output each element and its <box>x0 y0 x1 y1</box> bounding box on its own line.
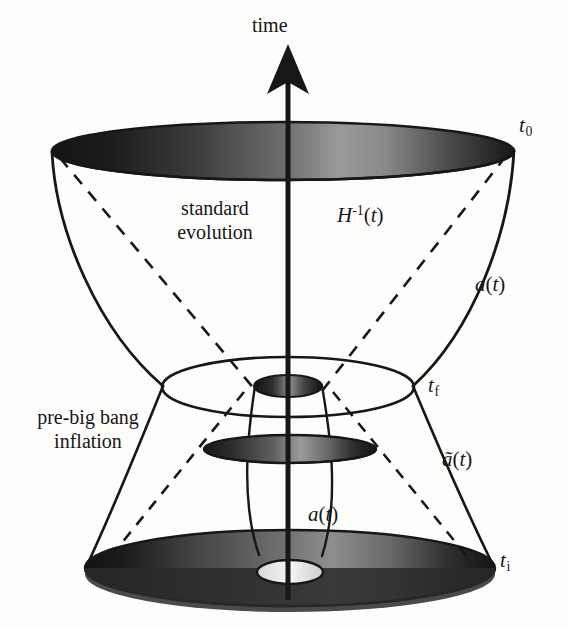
pre-big-bang-inflation-label: pre-big bang inflation <box>6 406 170 453</box>
diagram-canvas <box>0 0 568 630</box>
tf-sub: f <box>434 384 439 399</box>
a-curve-upper-left <box>52 152 163 386</box>
hubble-radius-label: H-1(t) <box>337 203 384 228</box>
atilde-base: ã <box>442 447 453 471</box>
top-disc <box>52 122 514 180</box>
hubble-dashed-upper-left <box>60 158 256 391</box>
a-upper-base: a <box>475 272 486 296</box>
time-marker-tf: tf <box>428 373 438 398</box>
atilde-curve-right <box>413 386 492 563</box>
a-upper-arg: (t) <box>486 272 506 296</box>
hubble-exponent: -1 <box>352 203 364 218</box>
hubble-base: H <box>337 203 352 227</box>
atilde-arg: (t) <box>453 447 473 471</box>
a-lower-arg: (t) <box>319 502 339 526</box>
dual-scale-factor-label: ã(t) <box>442 447 472 472</box>
ti-base: t <box>500 548 506 572</box>
time-axis-label: time <box>252 14 288 38</box>
cosmology-diagram-figure: time standard evolution pre-big bang inf… <box>0 0 568 630</box>
hubble-arg: (t) <box>364 203 384 227</box>
tf-base: t <box>428 373 434 397</box>
standard-evolution-label: standard evolution <box>140 197 290 244</box>
t0-sub: 0 <box>525 124 532 139</box>
scale-factor-upper-label: a(t) <box>475 272 505 297</box>
t0-base: t <box>519 113 525 137</box>
upper-cone-group <box>52 122 514 391</box>
ti-sub: i <box>506 559 510 574</box>
time-marker-t0: t0 <box>519 113 532 138</box>
time-marker-ti: ti <box>500 548 510 573</box>
a-curve-upper-right <box>413 150 514 386</box>
a-lower-base: a <box>308 502 319 526</box>
scale-factor-lower-label: a(t) <box>308 502 338 527</box>
